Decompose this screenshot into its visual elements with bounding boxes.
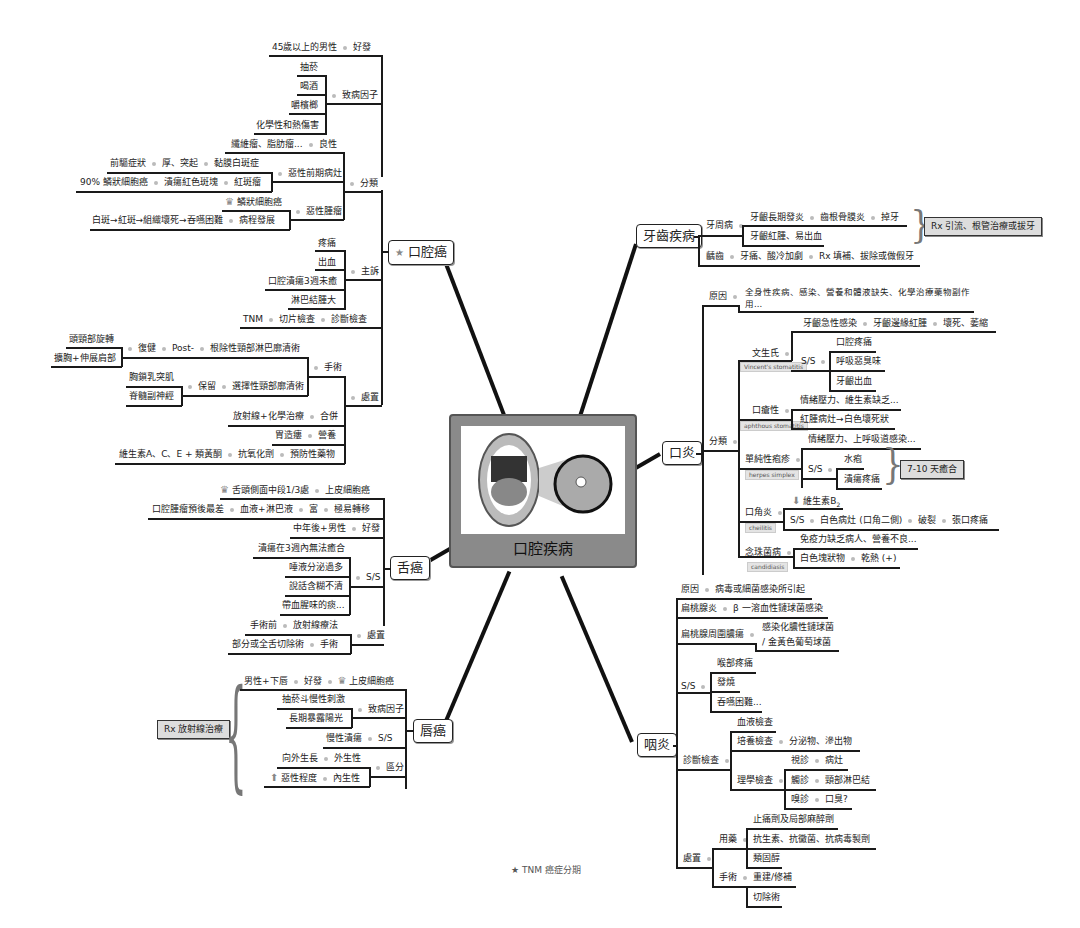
scc: ♛ 鱗狀細胞癌 <box>225 196 282 208</box>
underline <box>730 789 786 791</box>
underline <box>676 617 828 619</box>
branch-line <box>381 265 383 405</box>
complaint-lymph: 淋巴結腫大 <box>291 295 336 306</box>
underline <box>836 488 882 490</box>
underline <box>370 776 406 778</box>
topic-tongue-cancer[interactable]: 舌癌 <box>390 556 430 580</box>
underline <box>793 548 918 550</box>
underline <box>791 409 901 411</box>
underline <box>277 708 352 710</box>
branch-line <box>791 409 793 429</box>
underline <box>710 711 762 713</box>
tongue-preop: 手術前放射線療法 <box>250 620 338 631</box>
underline <box>285 576 350 578</box>
mouth-illustration <box>461 426 625 534</box>
cause-alcohol: 喝酒 <box>300 81 318 92</box>
underline <box>730 731 776 733</box>
underline <box>738 556 794 558</box>
underline <box>228 425 345 427</box>
cheilitis-label: 口角炎 <box>745 507 788 518</box>
topic-oral-cancer[interactable]: ★ 口腔癌 <box>388 240 454 265</box>
physical-exam-label: 理學檢查 <box>737 775 789 786</box>
ss-saliva: 唾液分泌過多 <box>289 562 343 573</box>
spoke-dental <box>575 243 638 425</box>
underline <box>290 537 384 539</box>
perio-chain: 牙齦長期發炎齒根骨膜炎掉牙 <box>750 212 899 223</box>
candida-sign: 白色塊狀物乾熱 (+) <box>800 553 896 564</box>
underline <box>288 308 345 310</box>
progress: 白斑→紅斑→組織壞死→吞嚥困難病程發展 <box>92 215 275 226</box>
erythroplakia: 90% 鱗狀細胞癌潰瘍紅色斑塊紅斑瘤 <box>80 177 261 188</box>
underline <box>289 113 326 115</box>
benign: 纖維瘤、脂肪瘤...良性 <box>231 139 337 150</box>
branch-line <box>381 190 383 265</box>
vincent-chain: 牙齦急性感染牙齦邊緣紅腫壞死、萎縮 <box>803 318 988 329</box>
ss-throat-pain: 喉部疼痛 <box>717 658 753 669</box>
underline <box>345 405 382 407</box>
central-topic[interactable]: 口腔疾病 <box>449 414 637 568</box>
rehab-neck: 頭頸部旋轉 <box>69 334 114 345</box>
underline <box>738 521 784 523</box>
herpes-tag: herpes simplex <box>745 470 799 480</box>
spoke-lip-cancer <box>441 571 511 729</box>
complaints-label: 主訴 <box>345 266 379 277</box>
underline <box>738 419 792 421</box>
underline <box>829 370 885 372</box>
underline <box>269 55 382 57</box>
surgery-label: 手術 <box>308 362 342 373</box>
underline <box>315 269 345 271</box>
branch-line <box>676 598 678 868</box>
branch-line <box>738 305 740 312</box>
underline <box>738 360 792 362</box>
underline <box>829 390 876 392</box>
dental-rx-box[interactable]: Rx 引流、根管治療或拔牙 <box>924 217 1042 236</box>
topic-lip-cancer[interactable]: 唇癌 <box>413 719 453 743</box>
med-analgesic: 止痛劑及局部麻醉劑 <box>753 814 834 825</box>
underline <box>783 508 843 510</box>
cause-chemical: 化學性和熱傷害 <box>256 120 319 131</box>
lip-rx-box[interactable]: Rx 放射線治療 <box>157 720 230 739</box>
underline <box>315 250 345 252</box>
tongue-type: ♛ 舌頭側面中段1/3處上皮細胞癌 <box>220 484 370 496</box>
underline <box>290 219 344 221</box>
underline <box>793 567 900 569</box>
herpes-ss-label: S/S <box>808 464 838 475</box>
topic-pharyngitis[interactable]: 咽炎 <box>637 733 677 757</box>
underline <box>746 906 782 908</box>
topic-dental[interactable]: 牙齒疾病 <box>636 224 702 248</box>
herpes-heal-box[interactable]: 7-10 天癒合 <box>900 460 964 479</box>
underline <box>351 644 384 646</box>
exam-smell: 嗅診口臭? <box>791 794 848 805</box>
vincent-bleed: 牙齦出血 <box>836 376 872 387</box>
underline <box>746 828 838 830</box>
exam-palpation: 觸診頸部淋巴結 <box>791 775 870 786</box>
underline <box>352 717 406 719</box>
branch-line <box>405 730 414 732</box>
branch-line <box>801 448 803 488</box>
branch-line <box>698 236 700 266</box>
underline <box>265 289 345 291</box>
lip-cause-sun: 長期暴露陽光 <box>289 713 343 724</box>
tongue-risk: 中年後+男性好發 <box>293 523 380 534</box>
herpes-ulcer: 潰瘍疼痛 <box>844 474 880 485</box>
keep-scm: 胸鎖乳突肌 <box>129 372 174 383</box>
underline <box>836 468 864 470</box>
aphthous-lesion: 紅腫病灶→白色壞死狀 <box>800 414 889 425</box>
cause-betel: 嚼檳榔 <box>291 100 318 111</box>
underline <box>791 331 996 333</box>
branch-line <box>381 55 383 177</box>
underline <box>90 229 290 231</box>
underline <box>676 867 714 869</box>
branch-line <box>730 731 732 789</box>
tonsillitis: 扁桃腺炎β 一溶血性鏈球菌感染 <box>681 603 823 614</box>
underline <box>297 75 326 77</box>
underline <box>272 181 344 183</box>
branch-line <box>381 251 389 253</box>
ss-bloody-sputum: 帶血腥味的痰... <box>282 600 345 611</box>
radical-dissection: 復健Post-根除性頸部淋巴廓清術 <box>122 343 300 354</box>
tnm-star-icon: ★ <box>395 247 404 258</box>
underline <box>285 595 350 597</box>
underline <box>783 529 999 531</box>
stomatitis-cause-label: 原因 <box>709 291 743 302</box>
underline <box>746 886 796 888</box>
